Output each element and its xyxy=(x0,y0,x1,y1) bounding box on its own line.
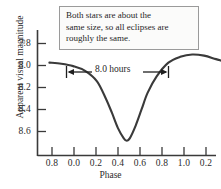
x-axis-ticks xyxy=(52,147,206,156)
y-axis-title: Apparent visual magnitude xyxy=(15,0,25,137)
explanation-line-2: same size, so all eclipses are xyxy=(66,22,193,34)
x-tick-label-3: 0.2 xyxy=(84,158,108,168)
x-axis-title: Phase xyxy=(0,170,221,180)
light-curve-figure: 7.8 8.0 8.2 8.4 8.6 0.8 0.0 0.2 0.4 0.6 … xyxy=(0,0,221,189)
period-annotation-label: 8.0 hours xyxy=(93,64,132,74)
x-tick-label-8: 0.2 xyxy=(194,158,218,168)
y-axis-ticks xyxy=(38,44,47,132)
x-tick-label-4: 0.4 xyxy=(106,158,130,168)
x-tick-label-2: 0.0 xyxy=(62,158,86,168)
x-tick-label-7: 1.0 xyxy=(172,158,196,168)
explanation-callout: Both stars are about the same size, so a… xyxy=(59,6,199,50)
explanation-line-1: Both stars are about the xyxy=(66,10,193,22)
x-tick-label-5: 0.6 xyxy=(128,158,152,168)
explanation-line-3: roughly the same. xyxy=(66,33,193,45)
x-tick-label-6: 0.8 xyxy=(150,158,174,168)
light-curve-path xyxy=(49,54,221,140)
x-tick-label-1: 0.8 xyxy=(40,158,64,168)
